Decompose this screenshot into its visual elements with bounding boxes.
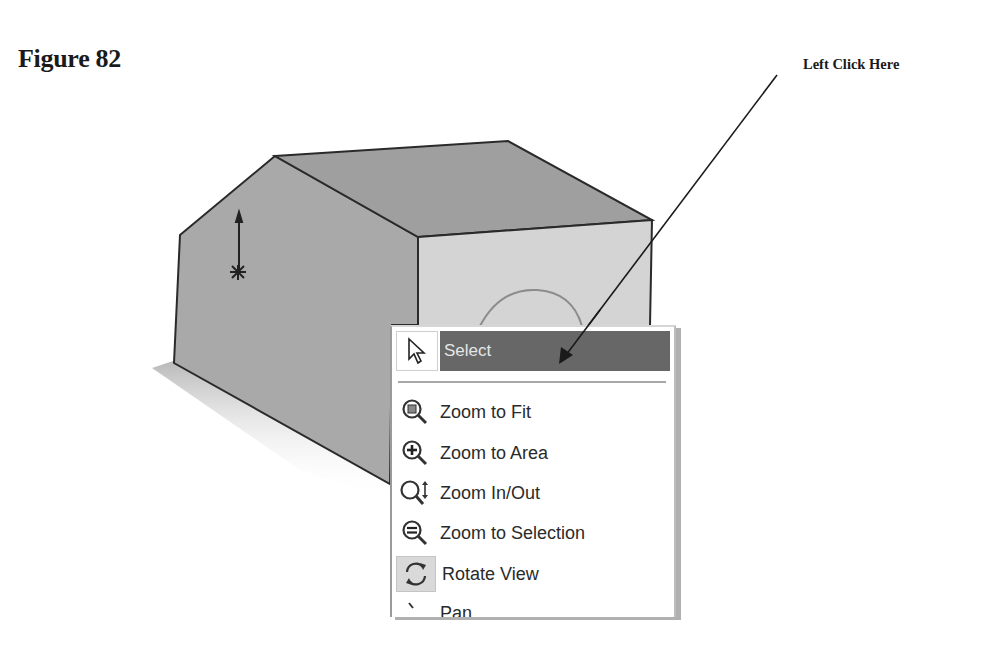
box-right-face[interactable]	[418, 220, 652, 326]
select-label: Select	[440, 331, 670, 371]
context-menu: Select Zoom to Fit Zoom to Area	[390, 325, 676, 617]
menu-item-label: Pan	[440, 603, 472, 618]
menu-separator	[398, 381, 666, 383]
zoom-to-area-icon	[396, 436, 434, 470]
menu-item-label: Zoom to Selection	[440, 523, 585, 544]
zoom-to-fit-icon	[396, 395, 434, 429]
zoom-to-selection-icon	[396, 516, 434, 550]
zoom-in-out-icon	[396, 476, 434, 510]
menu-item-label: Zoom to Area	[440, 443, 548, 464]
menu-item-zoom-to-fit[interactable]: Zoom to Fit	[396, 394, 670, 430]
menu-item-zoom-to-selection[interactable]: Zoom to Selection	[396, 515, 670, 551]
menu-item-zoom-to-area[interactable]: Zoom to Area	[396, 435, 670, 471]
menu-item-label: Zoom In/Out	[440, 483, 540, 504]
rotate-view-icon	[396, 556, 436, 592]
pointer-arrow-icon	[396, 331, 438, 371]
menu-item-select[interactable]: Select	[396, 331, 670, 371]
pan-icon	[396, 596, 434, 617]
menu-item-label: Zoom to Fit	[440, 402, 531, 423]
menu-item-pan[interactable]: Pan	[396, 595, 670, 617]
menu-item-zoom-in-out[interactable]: Zoom In/Out	[396, 475, 670, 511]
menu-item-label: Rotate View	[442, 564, 539, 585]
menu-item-rotate-view[interactable]: Rotate View	[396, 556, 670, 592]
